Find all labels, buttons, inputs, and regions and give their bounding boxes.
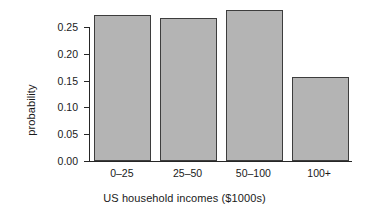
bar-chart: probability 0.000.050.100.150.200.25 0–2… bbox=[0, 0, 369, 220]
y-axis-tick-label: 0.05 bbox=[48, 129, 78, 140]
y-axis-tick-mark bbox=[84, 81, 89, 82]
y-axis-tick-mark bbox=[84, 27, 89, 28]
bar bbox=[292, 77, 349, 161]
bar bbox=[160, 18, 217, 161]
x-axis-title: US household incomes ($1000s) bbox=[0, 192, 369, 204]
x-axis-tick-label: 100+ bbox=[286, 166, 352, 180]
x-axis-line bbox=[89, 161, 352, 162]
x-axis-tick-label: 25–50 bbox=[155, 166, 221, 180]
y-axis-tick-labels: 0.000.050.100.150.200.25 bbox=[46, 0, 78, 220]
y-axis-tick-mark bbox=[84, 107, 89, 108]
plot-area bbox=[89, 0, 352, 161]
y-axis-tick-mark bbox=[84, 161, 89, 162]
y-axis-tick-label: 0.20 bbox=[48, 49, 78, 60]
bar bbox=[226, 10, 283, 161]
y-axis-tick-mark bbox=[84, 134, 89, 135]
x-axis-tick-label: 50–100 bbox=[221, 166, 287, 180]
y-axis-tick-label: 0.10 bbox=[48, 102, 78, 113]
y-axis-tick-label: 0.15 bbox=[48, 76, 78, 87]
y-axis-tick-mark bbox=[84, 54, 89, 55]
y-axis-title: probability bbox=[22, 0, 40, 220]
y-axis-tick-label: 0.00 bbox=[48, 156, 78, 167]
bar bbox=[94, 15, 151, 161]
x-axis-tick-labels: 0–2525–5050–100100+ bbox=[89, 166, 352, 182]
y-axis-tick-label: 0.25 bbox=[48, 22, 78, 33]
x-axis-tick-label: 0–25 bbox=[89, 166, 155, 180]
